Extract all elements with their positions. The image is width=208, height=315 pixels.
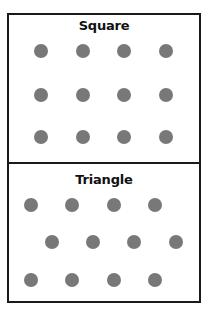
dot [107, 198, 121, 212]
dot [34, 44, 48, 58]
dot [148, 198, 162, 212]
dot [159, 88, 173, 102]
dot [117, 88, 131, 102]
dot [127, 235, 141, 249]
dot [34, 88, 48, 102]
dot [24, 198, 38, 212]
triangle-panel-title: Triangle [7, 172, 201, 187]
dot [148, 273, 162, 287]
dot [159, 44, 173, 58]
dot [117, 44, 131, 58]
dot [107, 273, 121, 287]
dot [45, 235, 59, 249]
dot [169, 235, 183, 249]
dot [86, 235, 100, 249]
dot [24, 273, 38, 287]
panel-divider [7, 162, 201, 164]
dot [34, 130, 48, 144]
dot [65, 198, 79, 212]
square-panel-title: Square [7, 18, 201, 33]
dot [76, 130, 90, 144]
dot [76, 44, 90, 58]
dot [65, 273, 79, 287]
dot [76, 88, 90, 102]
dot [159, 130, 173, 144]
dot [117, 130, 131, 144]
